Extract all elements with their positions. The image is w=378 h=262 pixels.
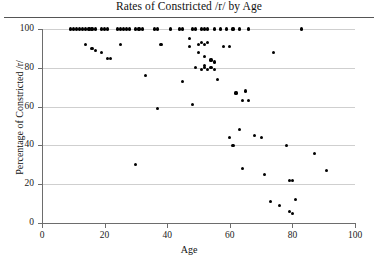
data-point	[206, 27, 209, 30]
y-axis-tick-label: 20	[8, 178, 34, 188]
data-point	[247, 99, 250, 102]
data-point	[247, 27, 250, 30]
data-point	[228, 45, 231, 48]
data-point	[141, 27, 144, 30]
gridline-y	[42, 145, 355, 146]
data-point	[144, 74, 147, 77]
data-point	[244, 89, 247, 92]
data-point	[194, 66, 197, 69]
y-axis-tick	[38, 184, 43, 185]
y-axis-tick	[38, 107, 43, 108]
y-axis-tick-label: 40	[8, 139, 34, 149]
page-title: Rates of Constricted /r/ by Age	[0, 0, 378, 12]
data-point	[134, 163, 137, 166]
x-axis-tick-label: 40	[152, 230, 182, 240]
title-divider	[4, 17, 374, 18]
data-point	[128, 27, 131, 30]
y-axis-tick-label: 100	[8, 23, 34, 33]
data-point	[219, 27, 222, 30]
data-point	[206, 41, 209, 44]
data-point	[234, 91, 237, 94]
data-point	[225, 27, 228, 30]
x-axis-tick	[355, 223, 356, 228]
x-axis-tick-label: 80	[277, 230, 307, 240]
data-point	[291, 179, 294, 182]
data-point	[278, 204, 281, 207]
data-point	[263, 173, 266, 176]
data-point	[231, 27, 234, 30]
gridline-y	[42, 184, 355, 185]
data-point	[119, 43, 122, 46]
y-axis-tick	[38, 29, 43, 30]
data-point	[197, 51, 200, 54]
data-point	[260, 136, 263, 139]
data-point	[216, 78, 219, 81]
x-axis-tick	[105, 223, 106, 228]
y-axis-tick-label: 80	[8, 62, 34, 72]
y-axis-tick	[38, 68, 43, 69]
data-point	[241, 167, 244, 170]
x-axis-tick-label: 0	[27, 230, 57, 240]
data-point	[285, 144, 288, 147]
y-axis-tick-label: 60	[8, 101, 34, 111]
data-point	[203, 55, 206, 58]
data-point	[169, 27, 172, 30]
data-point	[222, 45, 225, 48]
data-point	[94, 49, 97, 52]
data-point	[106, 27, 109, 30]
x-axis-tick	[167, 223, 168, 228]
data-point	[213, 27, 216, 30]
data-point	[231, 144, 234, 147]
y-axis-tick-label: 0	[8, 217, 34, 227]
data-point	[84, 43, 87, 46]
data-point	[300, 27, 303, 30]
x-axis-tick	[292, 223, 293, 228]
data-point	[238, 128, 241, 131]
data-point	[194, 27, 197, 30]
data-point	[272, 51, 275, 54]
plot-area	[42, 29, 355, 223]
data-point	[94, 27, 97, 30]
data-point	[238, 27, 241, 30]
data-point	[253, 134, 256, 137]
x-axis-tick-label: 100	[340, 230, 370, 240]
x-axis-tick	[230, 223, 231, 228]
gridline-y	[42, 107, 355, 108]
data-point	[313, 152, 316, 155]
x-axis-tick-label: 20	[90, 230, 120, 240]
data-point	[181, 27, 184, 30]
data-point	[213, 60, 216, 63]
data-point	[294, 198, 297, 201]
chart-figure: Rates of Constricted /r/ by Age Age Perc…	[0, 0, 378, 262]
data-point	[188, 45, 191, 48]
data-point	[100, 51, 103, 54]
x-axis-tick	[42, 223, 43, 228]
data-point	[159, 43, 162, 46]
data-point	[228, 136, 231, 139]
y-axis-tick	[38, 145, 43, 146]
data-point	[188, 37, 191, 40]
data-point	[109, 57, 112, 60]
data-point	[241, 99, 244, 102]
x-axis-title: Age	[0, 244, 378, 255]
data-point	[156, 27, 159, 30]
data-point	[181, 80, 184, 83]
data-point	[325, 169, 328, 172]
x-axis-tick-label: 60	[215, 230, 245, 240]
data-point	[291, 212, 294, 215]
data-point	[269, 200, 272, 203]
gridline-y	[42, 223, 355, 224]
gridline-y	[42, 68, 355, 69]
data-point	[156, 107, 159, 110]
data-point	[213, 68, 216, 71]
